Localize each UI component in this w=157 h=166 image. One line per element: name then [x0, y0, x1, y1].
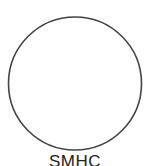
diagram-canvas: SMHC: [0, 0, 157, 166]
circle-outline: [9, 17, 142, 150]
circle-shape: [0, 0, 157, 166]
circle-label: SMHC: [0, 152, 150, 166]
